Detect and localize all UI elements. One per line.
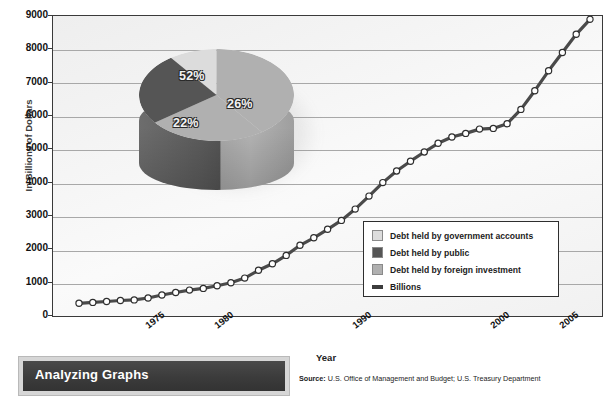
legend-label: Debt held by public [390, 248, 469, 258]
legend-swatch-medium-icon [372, 264, 383, 275]
y-tick-mark [48, 48, 52, 49]
analyzing-graphs-title: Analyzing Graphs [35, 367, 149, 382]
data-point [587, 16, 593, 22]
analyzing-graphs-panel: Analyzing Graphs [18, 356, 290, 396]
data-point [463, 130, 469, 136]
data-point [228, 280, 234, 286]
data-point [338, 217, 344, 223]
data-point [394, 168, 400, 174]
y-tick-mark [48, 215, 52, 216]
data-point [117, 297, 123, 303]
data-point [159, 292, 165, 298]
data-point [366, 193, 372, 199]
data-point [104, 298, 110, 304]
legend-item-public[interactable]: Debt held by public [372, 244, 552, 261]
legend-item-billions[interactable]: Billions [372, 278, 552, 295]
data-point [546, 68, 552, 74]
data-point [311, 235, 317, 241]
pie-top-face [139, 49, 294, 141]
y-axis-ticks: 0100020003000400050006000700080009000 [0, 0, 48, 384]
y-tick-label: 6000 [4, 109, 48, 120]
data-point [490, 125, 496, 131]
data-point [573, 31, 579, 37]
y-tick-mark [48, 115, 52, 116]
data-point [476, 126, 482, 132]
data-point [283, 252, 289, 258]
legend-label: Debt held by government accounts [390, 231, 533, 241]
data-point [380, 180, 386, 186]
y-tick-label: 4000 [4, 176, 48, 187]
legend-swatch-line-icon [372, 285, 383, 289]
y-tick-label: 0 [4, 309, 48, 320]
pie-chart: 52% 26% 22% [131, 44, 311, 216]
legend-item-foreign-investment[interactable]: Debt held by foreign investment [372, 261, 552, 278]
source-note: Source: U.S. Office of Management and Bu… [299, 374, 607, 384]
source-prefix: Source: [299, 374, 326, 383]
y-tick-label: 1000 [4, 276, 48, 287]
y-tick-label: 7000 [4, 76, 48, 87]
legend: Debt held by government accounts Debt he… [363, 221, 559, 297]
data-point [421, 149, 427, 155]
pie-label-foreign-investment: 26% [227, 97, 253, 111]
legend-swatch-light-icon [372, 230, 383, 241]
x-axis-title: Year [316, 352, 336, 363]
y-tick-mark [48, 282, 52, 283]
plot-area: 52% 26% 22% Debt held by government acco… [52, 15, 603, 317]
data-point [504, 121, 510, 127]
y-tick-mark [48, 248, 52, 249]
data-point [449, 134, 455, 140]
data-point [269, 261, 275, 267]
pie-label-public: 22% [173, 116, 199, 130]
data-point [352, 206, 358, 212]
pie-label-government-accounts: 52% [179, 69, 205, 83]
data-point [200, 285, 206, 291]
y-tick-mark [48, 15, 52, 16]
data-point [255, 267, 261, 273]
data-point [532, 88, 538, 94]
y-tick-label: 5000 [4, 142, 48, 153]
data-point [145, 295, 151, 301]
chart-title: Gross Federal Debt grew rapidly over the… [150, 0, 570, 3]
y-tick-label: 8000 [4, 42, 48, 53]
legend-label: Billions [390, 282, 421, 292]
y-tick-mark [48, 82, 52, 83]
y-tick-label: 2000 [4, 242, 48, 253]
data-point [297, 242, 303, 248]
data-point [214, 283, 220, 289]
y-tick-mark [48, 182, 52, 183]
y-tick-mark [48, 148, 52, 149]
data-point [518, 106, 524, 112]
legend-swatch-dark-icon [372, 247, 383, 258]
legend-item-government-accounts[interactable]: Debt held by government accounts [372, 227, 552, 244]
data-point [407, 158, 413, 164]
data-point [90, 299, 96, 305]
analyzing-graphs-header: Analyzing Graphs [23, 361, 285, 391]
data-point [435, 140, 441, 146]
data-point [186, 287, 192, 293]
y-tick-label: 3000 [4, 209, 48, 220]
data-point [131, 297, 137, 303]
data-point [325, 226, 331, 232]
data-point [173, 289, 179, 295]
source-text: U.S. Office of Management and Budget; U.… [326, 374, 541, 383]
y-tick-mark [48, 315, 52, 316]
y-tick-label: 9000 [4, 9, 48, 20]
data-point [242, 275, 248, 281]
legend-label: Debt held by foreign investment [390, 265, 521, 275]
data-point [559, 49, 565, 55]
data-point [76, 300, 82, 306]
